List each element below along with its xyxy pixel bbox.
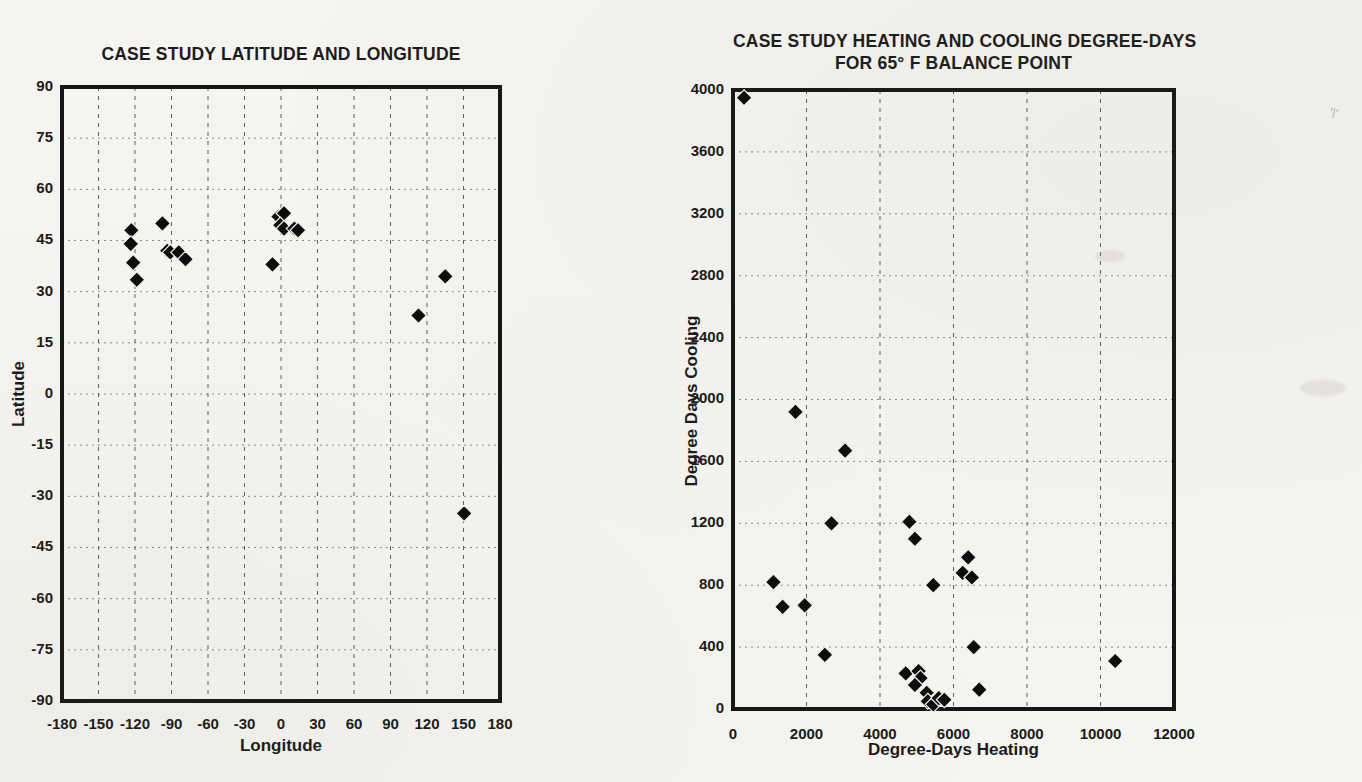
svg-text:2000: 2000 — [691, 389, 724, 406]
degree-days-plot: 0200040006000800010000120000400800120016… — [733, 90, 1174, 709]
svg-text:-150: -150 — [83, 715, 113, 732]
svg-text:2400: 2400 — [691, 328, 724, 345]
svg-text:15: 15 — [36, 333, 53, 350]
svg-text:30: 30 — [309, 715, 326, 732]
scan-smudge — [1300, 380, 1346, 396]
svg-text:800: 800 — [699, 575, 724, 592]
svg-text:1600: 1600 — [691, 451, 724, 468]
svg-text:0: 0 — [45, 384, 53, 401]
svg-text:3600: 3600 — [691, 142, 724, 159]
latlon-plot: -180-150-120-90-60-300306090120150180907… — [62, 87, 500, 701]
svg-text:-180: -180 — [47, 715, 77, 732]
svg-text:3200: 3200 — [691, 204, 724, 221]
scanned-page: CASE STUDY LATITUDE AND LONGITUDE Latitu… — [0, 0, 1362, 782]
scan-artifact: ′|′ — [1329, 105, 1340, 118]
degree-days-xlabel: Degree-Days Heating — [733, 740, 1174, 760]
degree-days-chart-title-line1: CASE STUDY HEATING AND COOLING DEGREE-DA… — [733, 31, 1174, 52]
svg-text:0: 0 — [277, 715, 285, 732]
svg-text:400: 400 — [699, 637, 724, 654]
svg-text:90: 90 — [36, 77, 53, 94]
degree-days-chart-title-line2: FOR 65° F BALANCE POINT — [733, 53, 1174, 74]
latlon-xlabel: Longitude — [62, 736, 500, 756]
svg-text:180: 180 — [487, 715, 512, 732]
svg-text:2800: 2800 — [691, 266, 724, 283]
svg-text:30: 30 — [36, 282, 53, 299]
svg-text:60: 60 — [346, 715, 363, 732]
latlon-chart-title: CASE STUDY LATITUDE AND LONGITUDE — [62, 44, 500, 65]
latlon-ylabel: Latitude — [9, 339, 29, 449]
svg-text:45: 45 — [36, 230, 53, 247]
svg-text:-15: -15 — [31, 435, 53, 452]
svg-text:150: 150 — [451, 715, 476, 732]
svg-text:-90: -90 — [31, 691, 53, 708]
svg-text:4000: 4000 — [691, 80, 724, 97]
svg-text:1200: 1200 — [691, 513, 724, 530]
svg-text:-30: -30 — [31, 486, 53, 503]
svg-text:0: 0 — [716, 699, 724, 716]
svg-text:-30: -30 — [234, 715, 256, 732]
svg-text:-60: -60 — [197, 715, 219, 732]
svg-text:-120: -120 — [120, 715, 150, 732]
svg-text:-75: -75 — [31, 640, 53, 657]
svg-text:75: 75 — [36, 128, 53, 145]
svg-text:-45: -45 — [31, 537, 53, 554]
svg-text:60: 60 — [36, 179, 53, 196]
svg-text:90: 90 — [382, 715, 399, 732]
svg-text:120: 120 — [414, 715, 439, 732]
svg-text:-60: -60 — [31, 589, 53, 606]
svg-text:-90: -90 — [161, 715, 183, 732]
